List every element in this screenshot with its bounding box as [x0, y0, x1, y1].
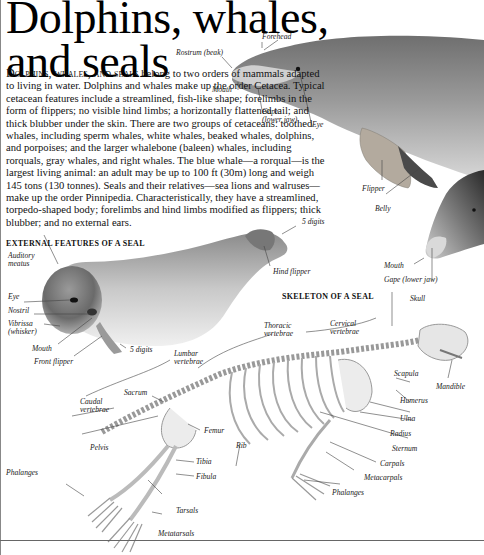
label-hind-flipper: Hind flipper	[273, 268, 310, 276]
label-gape: Gape (lower jaw)	[262, 108, 297, 125]
label-radius: Radius	[390, 430, 411, 438]
seal-illustration	[42, 229, 287, 354]
label-rib: Rib	[236, 442, 247, 450]
intro-paragraph: Dolphins, whales, and seals belong to tw…	[6, 67, 326, 229]
label-sternum: Sternum	[392, 445, 417, 453]
seal-external-heading: EXTERNAL FEATURES OF A SEAL	[6, 239, 145, 248]
label-sacrum: Sacrum	[124, 389, 147, 397]
label-scapula: Scapula	[394, 370, 418, 378]
label-femur: Femur	[204, 427, 224, 435]
label-seal-eye: Eye	[8, 293, 19, 301]
label-lumbar-vertebrae: Lumbar vertebrae	[174, 350, 203, 367]
label-vibrissa: Vibrissa (whisker)	[8, 320, 37, 337]
bottom-rule	[0, 540, 484, 541]
intro-lead: Dolphins, whales, and seals	[6, 66, 139, 80]
label-caudal-vertebrae: Caudal vertebrae	[80, 398, 109, 415]
label-metatarsals: Metatarsals	[158, 530, 194, 538]
label-5-digits-hind: 5 digits	[302, 218, 325, 226]
label-phalanges-fore: Phalanges	[332, 489, 364, 497]
label-fibula: Fibula	[196, 473, 216, 481]
label-mouth: Mouth	[212, 86, 232, 94]
label-gape-2: Gape (lower jaw)	[384, 276, 438, 284]
label-tibia: Tibia	[196, 458, 212, 466]
label-eye: Eye	[312, 121, 323, 129]
label-metacarpals: Metacarpals	[364, 474, 402, 482]
label-nostril: Nostril	[8, 307, 29, 315]
label-humerus: Humerus	[400, 397, 428, 405]
label-ulna: Ulna	[400, 415, 415, 423]
intro-body: belong to two orders of mammals adapted …	[6, 68, 325, 228]
label-tarsals: Tarsals	[176, 507, 198, 515]
label-cervical-vertebrae: Cervical vertebrae	[330, 320, 359, 337]
label-belly: Belly	[375, 205, 391, 213]
label-mandible: Mandible	[436, 383, 465, 391]
seal-skeleton-heading: SKELETON OF A SEAL	[282, 292, 374, 301]
label-seal-mouth: Mouth	[32, 345, 52, 353]
label-skull: Skull	[410, 295, 425, 303]
label-forehead: Forehead	[262, 33, 291, 41]
label-pelvis: Pelvis	[90, 444, 109, 452]
label-flipper: Flipper	[362, 185, 385, 193]
label-5-digits-front: 5 digits	[130, 346, 153, 354]
label-rostrum: Rostrum (beak)	[176, 49, 223, 57]
label-mouth-2: Mouth	[384, 262, 404, 270]
label-front-flipper: Front flipper	[34, 358, 73, 366]
label-phalanges-hind: Phalanges	[6, 469, 38, 477]
label-thoracic-vertebrae: Thoracic vertebrae	[264, 322, 293, 339]
label-carpals: Carpals	[380, 460, 404, 468]
label-auditory-meatus: Auditory meatus	[8, 252, 35, 269]
